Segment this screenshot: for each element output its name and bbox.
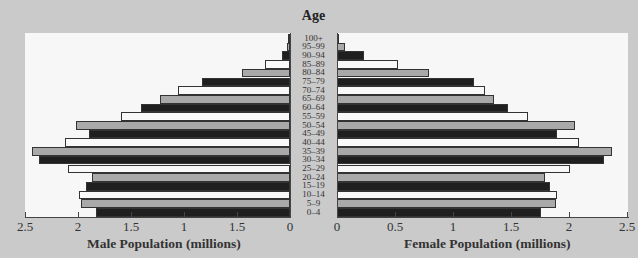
male-x-axis	[25, 217, 291, 218]
female-tick	[569, 212, 570, 218]
female-tick-label: 2	[549, 219, 589, 235]
female-axis-label: Female Population (millions)	[404, 236, 571, 252]
male-bar	[121, 112, 290, 121]
female-bar	[337, 43, 345, 52]
female-bar	[337, 173, 545, 182]
male-bar	[39, 156, 290, 165]
male-bar	[79, 191, 290, 200]
female-bar	[337, 69, 429, 78]
male-bar	[202, 78, 290, 87]
female-bar	[337, 95, 494, 104]
female-bar	[337, 51, 364, 60]
female-bar	[337, 60, 398, 69]
male-tick	[184, 212, 185, 218]
female-bar	[337, 112, 528, 121]
male-zero-line	[290, 33, 291, 217]
male-bar	[282, 51, 290, 60]
age-label: 0–4	[290, 208, 337, 217]
female-bar	[337, 78, 474, 87]
female-bar	[337, 121, 575, 130]
male-bar	[68, 165, 290, 174]
male-tick-label: 2	[58, 219, 98, 235]
male-tick	[290, 212, 291, 218]
female-tick	[395, 212, 396, 218]
male-tick	[131, 212, 132, 218]
female-bar	[337, 191, 557, 200]
male-tick-label: 2.5	[5, 219, 45, 235]
male-tick-label: 1.5	[111, 219, 151, 235]
male-bar	[86, 182, 290, 191]
female-bar	[337, 130, 557, 139]
male-bar	[89, 130, 290, 139]
female-bar	[337, 138, 579, 147]
female-x-axis	[337, 217, 629, 218]
male-bar	[160, 95, 290, 104]
male-bar	[242, 69, 290, 78]
male-bar	[65, 138, 290, 147]
female-tick-label: 2.5	[607, 219, 638, 235]
male-tick-label: 1.5	[217, 219, 257, 235]
female-zero-line	[337, 33, 338, 217]
male-bar	[81, 199, 290, 208]
female-bar	[337, 156, 604, 165]
female-tick	[627, 212, 628, 218]
female-bar	[337, 86, 485, 95]
male-bar	[141, 104, 290, 113]
male-bar	[76, 121, 290, 130]
female-tick-label: 1.5	[491, 219, 531, 235]
male-bar	[92, 173, 290, 182]
male-tick-label: 1	[164, 219, 204, 235]
female-tick	[511, 212, 512, 218]
male-axis-label: Male Population (millions)	[87, 236, 241, 252]
male-tick-label: 0	[270, 219, 310, 235]
male-tick	[78, 212, 79, 218]
male-tick	[237, 212, 238, 218]
male-bar	[96, 208, 290, 217]
female-tick	[337, 212, 338, 218]
female-bar	[337, 104, 508, 113]
female-bar	[337, 165, 570, 174]
male-bar	[265, 60, 290, 69]
male-bar	[32, 147, 290, 156]
female-tick-label: 1	[433, 219, 473, 235]
female-tick-label: 0.5	[375, 219, 415, 235]
female-bar	[337, 199, 556, 208]
male-bar	[178, 86, 290, 95]
female-bar	[337, 147, 612, 156]
female-tick	[453, 212, 454, 218]
male-tick	[25, 212, 26, 218]
female-tick-label: 0	[317, 219, 357, 235]
female-bar	[337, 182, 550, 191]
age-axis-title: Age	[290, 8, 337, 24]
